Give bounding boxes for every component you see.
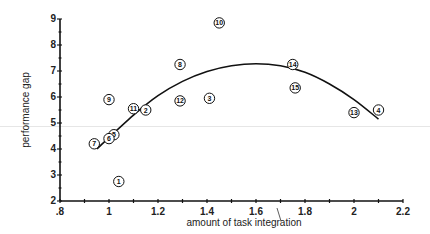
x-tick-label: 1.6 — [249, 206, 263, 217]
data-point-label: 8 — [178, 61, 182, 68]
x-tick-label: 1.4 — [200, 206, 214, 217]
y-tick-label: 3 — [50, 169, 56, 180]
data-point: 1 — [114, 176, 124, 186]
y-tick-label: 2 — [50, 195, 56, 206]
x-tick-label: 1 — [106, 206, 112, 217]
y-tick-label: 9 — [50, 13, 56, 24]
y-axis-title: performance gap — [20, 72, 31, 148]
y-tick-label: 8 — [50, 39, 56, 50]
data-point: 3 — [204, 93, 214, 103]
fit-curve-layer — [97, 64, 379, 149]
data-point-label: 10 — [215, 19, 223, 26]
data-point: 2 — [141, 105, 151, 115]
y-tick-label: 5 — [50, 117, 56, 128]
data-point: 9 — [104, 94, 114, 104]
data-point-label: 3 — [207, 95, 211, 102]
scatter-chart: .811.21.41.61.822.223456789 123456789101… — [0, 0, 430, 234]
data-point: 8 — [175, 59, 185, 69]
data-point: 7 — [89, 139, 99, 149]
data-point-label: 7 — [92, 140, 96, 147]
x-tick-label: 2.2 — [396, 206, 410, 217]
data-point: 15 — [290, 83, 300, 93]
data-point-label: 13 — [350, 109, 358, 116]
data-point: 6 — [104, 133, 114, 143]
data-point-label: 4 — [377, 107, 381, 114]
data-point-label: 2 — [144, 107, 148, 114]
data-point-label: 12 — [176, 97, 184, 104]
data-point: 10 — [214, 18, 224, 28]
x-tick-label: .8 — [56, 206, 65, 217]
fit-curve — [97, 64, 379, 149]
points-layer: 123456789101112131415 — [89, 18, 384, 187]
data-point-label: 6 — [107, 135, 111, 142]
data-point: 14 — [288, 59, 298, 69]
x-tick-label: 1.8 — [298, 206, 312, 217]
y-tick-label: 6 — [50, 91, 56, 102]
data-point: 13 — [349, 107, 359, 117]
data-point: 11 — [128, 104, 138, 114]
x-tick-label: 1.2 — [151, 206, 165, 217]
data-point: 12 — [175, 96, 185, 106]
data-point: 4 — [373, 105, 383, 115]
data-point-label: 11 — [130, 105, 138, 112]
data-point-label: 9 — [107, 96, 111, 103]
data-point-label: 15 — [291, 84, 299, 91]
y-tick-label: 7 — [50, 65, 56, 76]
x-axis-title: amount of task integration — [186, 217, 301, 228]
data-point-label: 14 — [289, 61, 297, 68]
x-tick-label: 2 — [351, 206, 357, 217]
data-point-label: 1 — [117, 178, 121, 185]
y-tick-label: 4 — [50, 143, 56, 154]
